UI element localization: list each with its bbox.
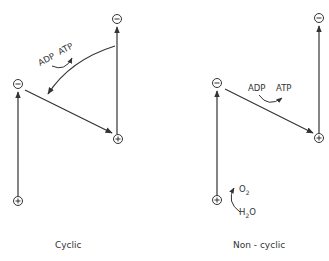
noncyclic-o2-label: O2 — [239, 184, 250, 196]
cyclic-caption: Cyclic — [55, 240, 82, 250]
cyclic-diagram: ADP ATP Cyclic — [14, 15, 123, 251]
noncyclic-left-minus-icon — [213, 79, 222, 88]
cyclic-adp-label: ADP — [36, 51, 56, 68]
cyclic-top-minus-icon — [113, 15, 122, 24]
cyclic-diagonal-arrow — [25, 90, 112, 133]
noncyclic-bottom-plus-icon — [213, 196, 222, 205]
noncyclic-caption: Non - cyclic — [233, 240, 285, 250]
noncyclic-adp-label: ADP — [248, 83, 266, 93]
noncyclic-diagonal-arrow — [225, 89, 313, 133]
cyclic-atp-label: ATP — [56, 41, 74, 57]
noncyclic-atp-label: ATP — [276, 83, 291, 93]
noncyclic-diagram: ADP ATP O2 H2O Non - cyclic — [213, 14, 324, 251]
cyclic-left-minus-icon — [14, 80, 23, 89]
noncyclic-right-plus-icon — [315, 134, 324, 143]
cyclic-right-plus-icon — [114, 135, 123, 144]
noncyclic-top-minus-icon — [315, 14, 324, 23]
noncyclic-h2o-label: H2O — [239, 207, 256, 219]
cyclic-bottom-plus-icon — [14, 197, 23, 206]
photosynthesis-diagram: ADP ATP Cyclic ADP ATP — [0, 0, 329, 261]
noncyclic-adp-atp-curve-arrow — [259, 95, 282, 102]
